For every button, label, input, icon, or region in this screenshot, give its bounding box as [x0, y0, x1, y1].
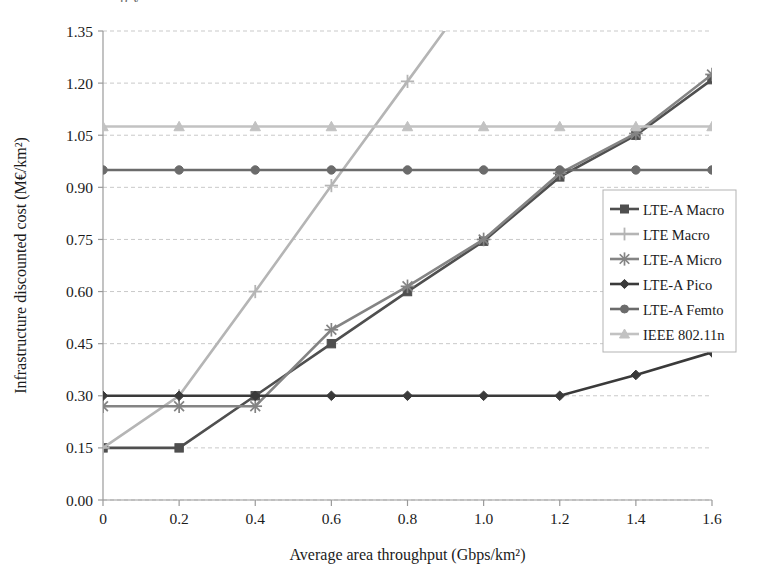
y-tick-label: 0.45 [66, 335, 93, 352]
legend-label: LTE-A Femto [643, 302, 723, 318]
legend-label: IEEE 802.11n [643, 327, 725, 343]
y-tick-label: 1.20 [66, 75, 93, 92]
y-tick-label: 1.35 [66, 23, 93, 40]
y-axis-title: Infrastructure discounted cost (M€/km²) [12, 137, 30, 394]
x-axis-ticks: 00.20.40.60.81.01.21.41.6 [99, 500, 722, 527]
asterisk-marker [401, 280, 415, 294]
series-line [103, 0, 499, 448]
y-axis-ticks: 0.000.150.300.450.600.750.901.051.201.35 [66, 23, 103, 509]
line-chart: 0.000.150.300.450.600.750.901.051.201.35… [0, 0, 773, 584]
asterisk-marker [325, 323, 339, 337]
circle-marker [479, 166, 487, 174]
circle-marker [708, 166, 716, 174]
asterisk-marker [248, 399, 262, 413]
circle-marker [175, 166, 183, 174]
x-tick-label: 1.6 [702, 510, 722, 527]
legend-item[interactable]: LTE Macro [610, 227, 710, 243]
asterisk-marker [618, 252, 631, 265]
diamond-marker [403, 391, 413, 401]
circle-marker [632, 166, 640, 174]
legend-label: LTE-A Pico [643, 277, 712, 293]
y-tick-label: 1.05 [66, 127, 93, 144]
x-tick-label: 0.8 [398, 510, 418, 527]
y-tick-label: 0.15 [66, 439, 93, 456]
x-tick-label: 0.2 [169, 510, 188, 527]
series-lte-a-femto [99, 166, 716, 174]
asterisk-marker [705, 68, 719, 82]
y-tick-label: 0.30 [66, 387, 93, 404]
x-tick-label: 0.4 [246, 510, 266, 527]
square-marker [327, 339, 335, 347]
y-tick-label: 0.00 [66, 492, 93, 509]
circle-marker [621, 305, 629, 313]
asterisk-marker [96, 399, 110, 413]
y-tick-label: 0.60 [66, 283, 93, 300]
series-lte-macro [96, 0, 498, 454]
diamond-marker [327, 391, 337, 401]
legend-label: LTE-A Micro [643, 252, 722, 268]
x-tick-label: 0.6 [322, 510, 342, 527]
x-axis-title: Average area throughput (Gbps/km²) [290, 546, 526, 564]
diamond-marker [631, 370, 641, 380]
chart-figure: p y 0.000.150.300.450.600.750.901.051.20… [0, 0, 773, 584]
asterisk-marker [477, 233, 491, 247]
series-ieee-802-11n [98, 121, 717, 130]
circle-marker [556, 166, 564, 174]
legend-label: LTE Macro [643, 227, 710, 243]
x-tick-label: 1.2 [550, 510, 569, 527]
square-marker [621, 205, 629, 213]
chart-legend: LTE-A MacroLTE MacroLTE-A MicroLTE-A Pic… [603, 190, 736, 352]
diamond-marker [555, 391, 565, 401]
clipped-header-text: p y [120, 0, 140, 2]
legend-label: LTE-A Macro [643, 202, 724, 218]
series-lte-a-pico [98, 348, 717, 401]
y-tick-label: 0.75 [66, 231, 93, 248]
asterisk-marker [172, 399, 186, 413]
x-tick-label: 0 [99, 510, 107, 527]
y-tick-label: 0.90 [66, 179, 93, 196]
diamond-marker [479, 391, 489, 401]
circle-marker [327, 166, 335, 174]
circle-marker [99, 166, 107, 174]
circle-marker [251, 166, 259, 174]
x-tick-label: 1.4 [626, 510, 646, 527]
x-tick-label: 1.0 [474, 510, 494, 527]
square-marker [175, 444, 183, 452]
circle-marker [403, 166, 411, 174]
